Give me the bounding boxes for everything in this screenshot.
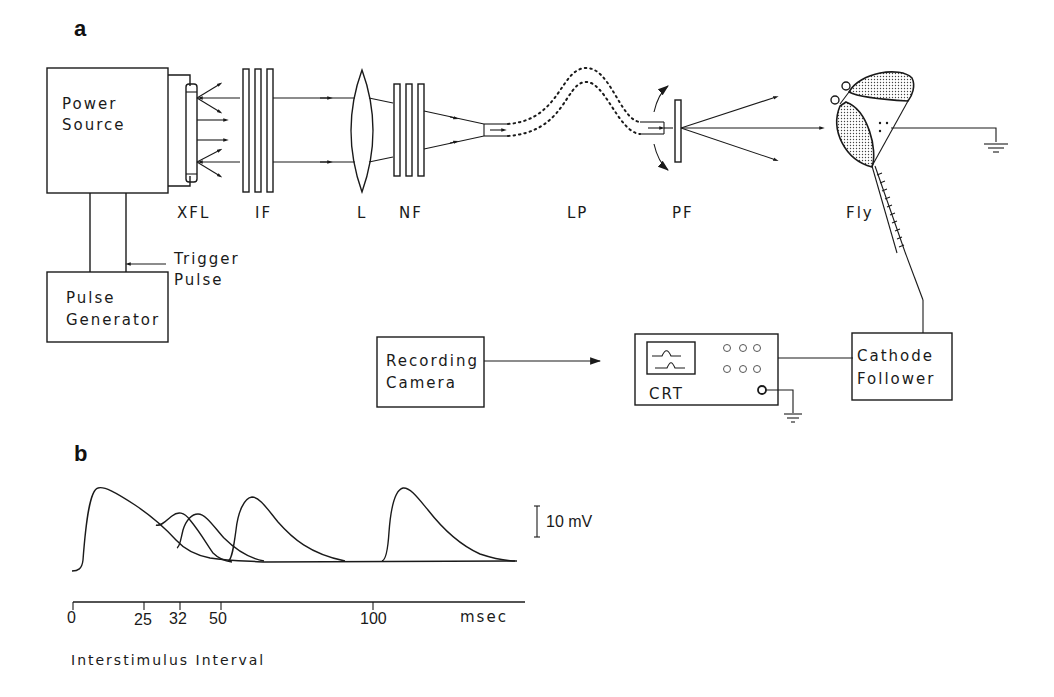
recording-camera-label-1: Recording (386, 352, 479, 370)
tick-0: 0 (67, 609, 76, 626)
pf-label: PF (672, 204, 694, 222)
figure: a Power Source Trigger Pulse Pulse Gener… (0, 0, 1054, 697)
light-pipe (484, 68, 668, 170)
power-source-label-2: Source (62, 116, 126, 134)
trigger-pulse-label-1: Trigger (173, 250, 240, 268)
tick-50: 50 (209, 610, 227, 627)
power-source-label-1: Power (62, 95, 117, 113)
recording-camera-label-2: Camera (386, 374, 457, 392)
if-label: IF (255, 204, 272, 222)
interference-filters (243, 69, 273, 192)
polarizing-filter (675, 100, 681, 162)
cathode-follower-label-1: Cathode (857, 347, 934, 365)
recording-camera-box: Recording Camera (377, 337, 484, 407)
lens (351, 70, 373, 192)
fly-label: Fly (846, 204, 874, 222)
lp-label: LP (567, 204, 588, 222)
tick-100: 100 (360, 610, 387, 627)
pulse-generator-label-1: Pulse (66, 289, 116, 307)
scale-bar: 10 mV (534, 506, 593, 537)
axis-unit: msec (460, 608, 508, 626)
xenon-flash-lamp (168, 75, 240, 186)
nf-label: NF (399, 204, 423, 222)
pulse-generator-label-2: Generator (66, 311, 160, 329)
xfl-label: XFL (177, 204, 210, 222)
response-traces (72, 488, 517, 571)
l-label: L (357, 204, 367, 222)
pulse-generator-box: Pulse Generator (47, 272, 168, 342)
crt-oscilloscope: CRT (635, 334, 802, 422)
power-source-box: Power Source (47, 68, 168, 193)
time-axis: 0 25 32 50 100 msec Interstimulus Interv… (67, 602, 525, 668)
crt-label: CRT (649, 385, 684, 403)
tick-25: 25 (134, 611, 152, 628)
neutral-filters (394, 84, 424, 176)
panel-b-label: b (74, 441, 87, 466)
trigger-pulse-label-2: Pulse (174, 271, 224, 289)
scale-bar-label: 10 mV (546, 513, 593, 530)
cathode-follower-box: Cathode Follower (852, 333, 952, 400)
panel-a-label: a (74, 16, 87, 41)
cathode-follower-label-2: Follower (857, 370, 935, 388)
tick-32: 32 (169, 610, 187, 627)
axis-title: Interstimulus Interval (71, 652, 265, 668)
fly-drawing (831, 72, 1008, 333)
